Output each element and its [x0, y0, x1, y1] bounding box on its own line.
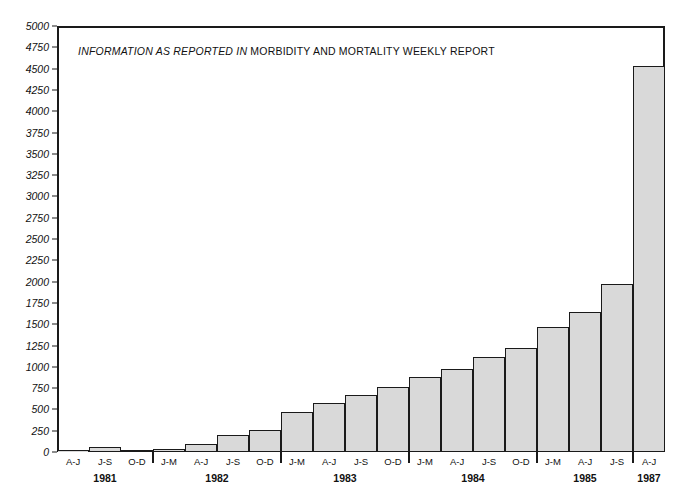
x-axis-tick-label: O-D — [256, 456, 273, 467]
x-axis-tick-label: J-M — [417, 456, 433, 467]
x-axis-tick-label: J-S — [98, 456, 112, 467]
bar — [345, 395, 377, 452]
x-axis-tick-label: A-J — [66, 456, 80, 467]
bar — [409, 377, 441, 452]
x-axis-tick-label: J-M — [289, 456, 305, 467]
y-axis-tick-label: 3750 — [26, 127, 49, 139]
x-axis-tick-label: J-M — [545, 456, 561, 467]
x-axis-tick-label: O-D — [384, 456, 401, 467]
x-axis-tick-label: O-D — [128, 456, 145, 467]
y-axis-tick-label: 500 — [31, 403, 49, 415]
aids-cases-bar-chart: 0250500750100012501500175020002250250027… — [0, 0, 686, 503]
x-axis-tick-label: A-J — [194, 456, 208, 467]
x-axis-year-separator — [536, 452, 538, 463]
x-axis: A-JJ-SO-DJ-MA-JJ-SO-DJ-MA-JJ-SO-DJ-MA-JJ… — [57, 452, 665, 503]
bar — [313, 403, 345, 452]
y-axis-tick-label: 2250 — [26, 254, 49, 266]
x-axis-year-label: 1985 — [573, 472, 596, 484]
y-axis-tick-label: 750 — [31, 382, 49, 394]
y-axis-tick-label: 4250 — [26, 84, 49, 96]
x-axis-tick-label: A-J — [450, 456, 464, 467]
x-axis-year-separator — [280, 452, 282, 463]
bars-layer — [57, 26, 665, 452]
x-axis-year-label: 1987 — [637, 472, 660, 484]
y-axis-tick-label: 4750 — [26, 41, 49, 53]
bar — [185, 444, 217, 452]
x-axis-tick-label: A-J — [578, 456, 592, 467]
x-axis-year-label: 1982 — [205, 472, 228, 484]
x-axis-year-label: 1981 — [93, 472, 116, 484]
bar — [281, 412, 313, 452]
bar — [441, 369, 473, 452]
bar — [505, 348, 537, 452]
bar — [601, 284, 633, 452]
y-axis-tick-label: 0 — [43, 446, 49, 458]
bar — [377, 387, 409, 452]
bar — [569, 312, 601, 452]
x-axis-year-separator — [408, 452, 410, 463]
bar — [249, 430, 281, 452]
y-axis-tick-label: 1000 — [26, 361, 49, 373]
bar — [217, 435, 249, 452]
y-axis-tick-label: 1750 — [26, 297, 49, 309]
bar — [633, 66, 665, 452]
y-axis-tick-label: 2500 — [26, 233, 49, 245]
y-axis-tick-label: 5000 — [26, 20, 49, 32]
x-axis-year-separator — [632, 452, 634, 463]
y-axis-tick-label: 1250 — [26, 340, 49, 352]
x-axis-tick-label: J-M — [161, 456, 177, 467]
x-axis-tick-label: J-S — [354, 456, 368, 467]
y-axis-tick-label: 1500 — [26, 318, 49, 330]
x-axis-year-label: 1984 — [461, 472, 484, 484]
x-axis-year-label: 1983 — [333, 472, 356, 484]
y-axis-tick-label: 3500 — [26, 148, 49, 160]
bar — [473, 357, 505, 452]
y-axis-tick-label: 3250 — [26, 169, 49, 181]
y-axis: 0250500750100012501500175020002250250027… — [0, 26, 57, 452]
y-axis-tick-label: 2000 — [26, 276, 49, 288]
y-axis-tick-label: 4500 — [26, 63, 49, 75]
y-axis-tick-label: 3000 — [26, 190, 49, 202]
y-axis-tick-label: 4000 — [26, 105, 49, 117]
x-axis-tick-label: O-D — [512, 456, 529, 467]
x-axis-tick-label: J-S — [482, 456, 496, 467]
x-axis-tick-label: J-S — [226, 456, 240, 467]
x-axis-tick-label: A-J — [642, 456, 656, 467]
x-axis-tick-label: J-S — [610, 456, 624, 467]
x-axis-tick-label: A-J — [322, 456, 336, 467]
y-axis-tick-label: 250 — [31, 425, 49, 437]
y-axis-tick-label: 2750 — [26, 212, 49, 224]
x-axis-year-separator — [152, 452, 154, 463]
bar — [537, 327, 569, 452]
